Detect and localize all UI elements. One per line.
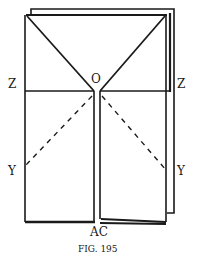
dashed-fold-right bbox=[102, 96, 166, 170]
label-o: O bbox=[91, 72, 101, 86]
label-y-right: Y bbox=[176, 164, 186, 178]
left-diagonal bbox=[27, 16, 94, 91]
label-ac: AC bbox=[89, 225, 108, 239]
label-z-right: Z bbox=[177, 77, 185, 91]
folding-diagram: O Z Z Y Y AC FIG. 195 bbox=[0, 0, 200, 263]
label-z-left: Z bbox=[8, 77, 16, 91]
bottom-edge-right bbox=[100, 219, 166, 224]
back-sheet-outline bbox=[31, 9, 174, 213]
label-y-left: Y bbox=[7, 164, 17, 178]
figure-caption: FIG. 195 bbox=[78, 244, 118, 254]
dashed-fold-left bbox=[25, 96, 92, 166]
right-diagonal bbox=[100, 16, 165, 91]
